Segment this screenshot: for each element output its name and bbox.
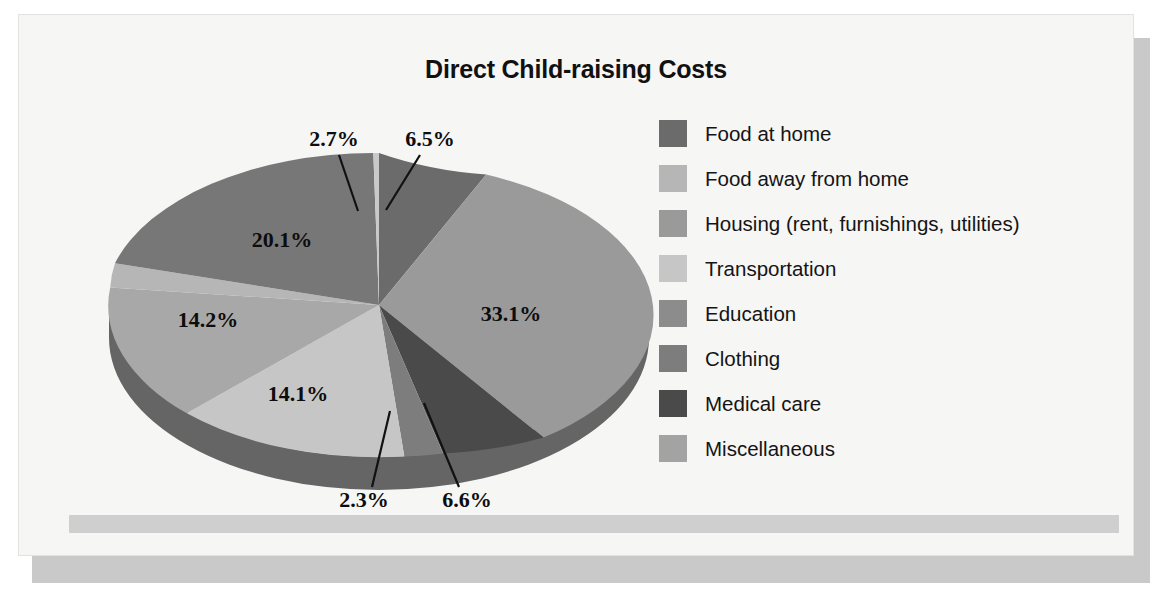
legend-swatch-medical-care — [659, 390, 687, 417]
legend-swatch-housing — [659, 210, 687, 237]
pie-chart-svg: 33.1% 20.1% 14.2% 14.1% 2.7% 6.5% 2.3% — [79, 93, 679, 513]
pie-label-transportation: 14.1% — [268, 381, 329, 406]
pie-label-food-at-home: 6.5% — [405, 126, 455, 151]
pie-slices — [108, 153, 653, 457]
legend: Food at home Food away from home Housing… — [659, 111, 1119, 471]
legend-item-food-at-home[interactable]: Food at home — [659, 111, 1119, 156]
legend-item-education[interactable]: Education — [659, 291, 1119, 336]
legend-item-medical-care[interactable]: Medical care — [659, 381, 1119, 426]
pie-label-food-away: 2.7% — [309, 126, 359, 151]
figure-root: Direct Child-raising Costs — [0, 0, 1162, 591]
legend-label-education: Education — [705, 302, 796, 326]
legend-label-clothing: Clothing — [705, 347, 780, 371]
pie-label-medical-care: 6.6% — [442, 487, 492, 512]
pie-label-housing: 33.1% — [481, 301, 542, 326]
legend-swatch-miscellaneous — [659, 435, 687, 462]
legend-item-miscellaneous[interactable]: Miscellaneous — [659, 426, 1119, 471]
legend-label-transportation: Transportation — [705, 257, 836, 281]
legend-item-food-away-from-home[interactable]: Food away from home — [659, 156, 1119, 201]
legend-item-transportation[interactable]: Transportation — [659, 246, 1119, 291]
pie-label-miscellaneous: 20.1% — [252, 227, 313, 252]
pie-label-education: 14.2% — [178, 307, 239, 332]
figure-card: Direct Child-raising Costs — [18, 14, 1134, 556]
figure-bottom-band — [69, 515, 1119, 533]
legend-swatch-food-away-from-home — [659, 165, 687, 192]
legend-swatch-education — [659, 300, 687, 327]
pie-label-clothing: 2.3% — [339, 487, 389, 512]
legend-item-clothing[interactable]: Clothing — [659, 336, 1119, 381]
chart-title: Direct Child-raising Costs — [19, 55, 1133, 84]
legend-swatch-transportation — [659, 255, 687, 282]
legend-label-food-away-from-home: Food away from home — [705, 167, 909, 191]
legend-label-medical-care: Medical care — [705, 392, 821, 416]
pie-chart: 33.1% 20.1% 14.2% 14.1% 2.7% 6.5% 2.3% — [79, 93, 679, 513]
legend-label-housing: Housing (rent, furnishings, utilities) — [705, 212, 1019, 236]
legend-swatch-food-at-home — [659, 120, 687, 147]
legend-swatch-clothing — [659, 345, 687, 372]
legend-label-miscellaneous: Miscellaneous — [705, 437, 835, 461]
legend-item-housing[interactable]: Housing (rent, furnishings, utilities) — [659, 201, 1119, 246]
legend-label-food-at-home: Food at home — [705, 122, 832, 146]
